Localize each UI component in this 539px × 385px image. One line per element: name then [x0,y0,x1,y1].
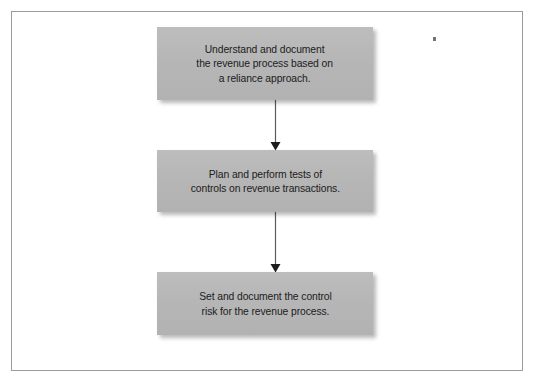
flowchart-canvas: Understand and document the revenue proc… [0,0,539,385]
flowchart-node-label: Set and document the control risk for th… [187,289,342,318]
arrow-node1-to-node2 [271,100,281,151]
flowchart-node-plan-perform-tests-of-controls[interactable]: Plan and perform tests of controls on re… [157,150,373,212]
flowchart-node-set-document-control-risk[interactable]: Set and document the control risk for th… [157,272,373,335]
flowchart-node-label: Plan and perform tests of controls on re… [179,167,351,196]
flowchart-node-understand-document-revenue-process[interactable]: Understand and document the revenue proc… [157,27,373,100]
flowchart-node-label: Understand and document the revenue proc… [185,42,344,86]
arrow-node2-to-node3 [271,212,281,273]
scan-speck-artifact [433,37,436,41]
